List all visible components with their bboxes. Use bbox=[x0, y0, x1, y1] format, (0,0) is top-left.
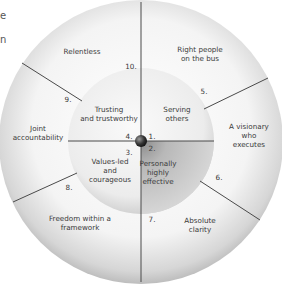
number-4: 4. bbox=[126, 132, 133, 141]
number-2: 2. bbox=[149, 144, 156, 153]
outer-label-absolute-clarity: Absoluteclarity bbox=[184, 216, 215, 234]
inner-label-personally-highly-effective: Personallyhighlyeffective bbox=[140, 159, 177, 186]
number-5: 5. bbox=[201, 87, 208, 96]
number-6: 6. bbox=[216, 173, 223, 182]
number-1: 1. bbox=[149, 132, 156, 141]
inner-label-serving-others: Servingothers bbox=[163, 105, 190, 123]
center-hub bbox=[135, 135, 147, 147]
outer-label-relentless: Relentless bbox=[64, 47, 101, 56]
number-8: 8. bbox=[66, 183, 73, 192]
number-10: 10. bbox=[125, 62, 136, 71]
title-fragment-1: e bbox=[0, 10, 6, 21]
title-fragment-2: n bbox=[0, 34, 6, 45]
inner-label-values-led: Values-ledandcourageous bbox=[89, 157, 131, 184]
outer-label-visionary: A visionarywhoexecutes bbox=[229, 122, 269, 149]
leadership-wheel-diagram: e n Servingothers Personallyhighlyeffect… bbox=[0, 0, 282, 284]
number-9: 9. bbox=[65, 95, 72, 104]
number-7: 7. bbox=[149, 215, 156, 224]
outer-label-joint-accountability: Jointaccountability bbox=[13, 124, 64, 142]
outer-label-right-people: Right peopleon the bus bbox=[177, 45, 223, 63]
inner-label-trusting: Trustingand trustworthy bbox=[80, 105, 138, 123]
number-3: 3. bbox=[126, 148, 133, 157]
outer-label-freedom: Freedom within aframework bbox=[49, 214, 111, 232]
